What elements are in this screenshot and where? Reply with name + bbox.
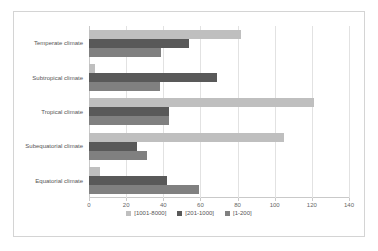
category-label: Tropical climate (41, 109, 83, 115)
legend-item[interactable]: [1-200] (225, 210, 252, 216)
bar (89, 185, 199, 194)
bar (89, 176, 167, 185)
x-tick-mark (200, 198, 201, 201)
x-tick-label: 20 (123, 202, 130, 208)
bar (89, 82, 160, 91)
bar (89, 73, 217, 82)
bar (89, 39, 189, 48)
bar (89, 116, 169, 125)
category-label: Equatorial climate (35, 178, 83, 184)
legend-label: [1001-8000] (134, 210, 166, 216)
x-tick-label: 0 (87, 202, 90, 208)
bar (89, 133, 284, 142)
bar (89, 48, 161, 57)
x-tick-mark (126, 198, 127, 201)
x-tick-mark (312, 198, 313, 201)
legend-item[interactable]: [1001-8000] (126, 210, 166, 216)
x-tick-label: 100 (270, 202, 280, 208)
x-tick-label: 40 (160, 202, 167, 208)
bar (89, 151, 147, 160)
plot-area: Temperate climateSubtropical climateTrop… (89, 26, 349, 198)
x-tick-mark (238, 198, 239, 201)
legend-swatch-icon (126, 211, 131, 216)
bar (89, 64, 95, 73)
category-label: Temperate climate (34, 40, 83, 46)
bar-group: Subtropical climate (89, 60, 349, 94)
x-tick-mark (275, 198, 276, 201)
x-tick-label: 120 (307, 202, 317, 208)
legend-swatch-icon (177, 211, 182, 216)
bar (89, 98, 314, 107)
x-tick-mark (163, 198, 164, 201)
gridline (349, 26, 350, 198)
bar (89, 142, 137, 151)
category-label: Subequatorial climate (25, 143, 83, 149)
bar-group: Tropical climate (89, 95, 349, 129)
chart-legend: [1001-8000][201-1000][1-200] (14, 210, 364, 216)
x-tick-mark (349, 198, 350, 201)
legend-label: [201-1000] (185, 210, 214, 216)
bar (89, 107, 169, 116)
chart-frame: Temperate climateSubtropical climateTrop… (13, 11, 365, 237)
bar-group: Subequatorial climate (89, 129, 349, 163)
x-tick-label: 140 (344, 202, 354, 208)
bar-group: Temperate climate (89, 26, 349, 60)
bar (89, 30, 241, 39)
x-tick-label: 80 (234, 202, 241, 208)
category-label: Subtropical climate (32, 75, 83, 81)
legend-item[interactable]: [201-1000] (177, 210, 214, 216)
legend-label: [1-200] (233, 210, 252, 216)
x-tick-mark (89, 198, 90, 201)
x-tick-label: 60 (197, 202, 204, 208)
legend-swatch-icon (225, 211, 230, 216)
bar (89, 167, 100, 176)
bar-group: Equatorial climate (89, 164, 349, 198)
